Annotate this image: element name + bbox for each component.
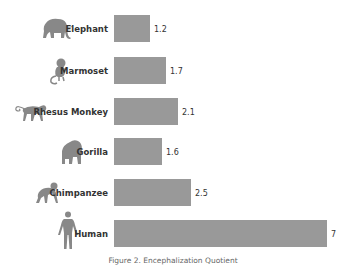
value-label: 2.5 (195, 188, 208, 197)
value-label: 7 (331, 229, 336, 238)
bar-chimpanzee (114, 179, 191, 206)
category-label: Marmoset (60, 66, 108, 76)
bar-row-rhesus-monkey: Rhesus Monkey 2.1 (0, 98, 346, 125)
category-label: Rhesus Monkey (33, 107, 108, 117)
value-label: 2.1 (182, 107, 195, 116)
figure-caption: Figure 2. Encephalization Quotient (0, 256, 346, 265)
category-label: Elephant (66, 24, 108, 34)
category-label: Human (74, 229, 108, 239)
bar-elephant (114, 15, 150, 42)
bar-rhesus-monkey (114, 98, 178, 125)
bar-row-marmoset: Marmoset 1.7 (0, 57, 346, 84)
value-label: 1.7 (170, 66, 183, 75)
bar-row-chimpanzee: Chimpanzee 2.5 (0, 179, 346, 206)
bar-row-human: Human 7 (0, 220, 346, 247)
bar-row-gorilla: Gorilla 1.6 (0, 138, 346, 165)
category-label: Chimpanzee (50, 188, 108, 198)
category-label: Gorilla (77, 147, 109, 157)
bar-gorilla (114, 138, 162, 165)
bar-human (114, 220, 327, 247)
value-label: 1.2 (154, 24, 167, 33)
value-label: 1.6 (166, 147, 179, 156)
bar-row-elephant: Elephant 1.2 (0, 15, 346, 42)
bar-marmoset (114, 57, 166, 84)
